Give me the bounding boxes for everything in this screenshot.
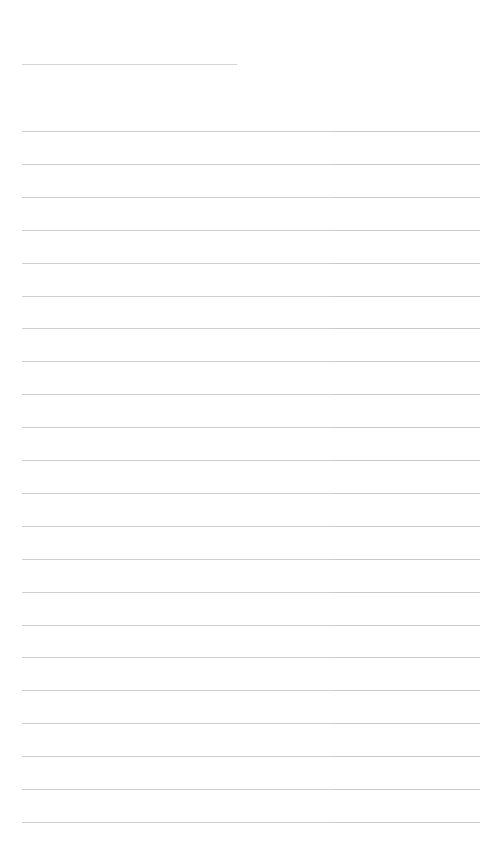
ruled-row: [22, 559, 480, 560]
row-line-left: [22, 164, 334, 165]
row-line-right: [334, 756, 480, 757]
ruled-row: [22, 427, 480, 428]
ruled-row: [22, 131, 480, 132]
ruled-row: [22, 197, 480, 198]
row-line-right: [334, 131, 480, 132]
row-line-right: [334, 361, 480, 362]
row-line-right: [334, 493, 480, 494]
row-line-left: [22, 493, 334, 494]
row-line-right: [334, 328, 480, 329]
ruled-row: [22, 756, 480, 757]
ruled-row: [22, 723, 480, 724]
ruled-row: [22, 263, 480, 264]
row-line-left: [22, 394, 334, 395]
ruled-row: [22, 493, 480, 494]
row-line-right: [334, 427, 480, 428]
ruled-row: [22, 592, 480, 593]
ruled-row: [22, 164, 480, 165]
row-line-left: [22, 197, 334, 198]
ruled-row: [22, 625, 480, 626]
row-line-right: [334, 197, 480, 198]
title-blank-line: [22, 64, 237, 65]
row-line-right: [334, 789, 480, 790]
row-line-right: [334, 460, 480, 461]
row-line-left: [22, 690, 334, 691]
row-line-right: [334, 657, 480, 658]
ruled-row: [22, 230, 480, 231]
row-line-left: [22, 723, 334, 724]
row-line-left: [22, 328, 334, 329]
row-line-right: [334, 394, 480, 395]
row-line-right: [334, 559, 480, 560]
row-line-left: [22, 361, 334, 362]
row-line-left: [22, 789, 334, 790]
row-line-right: [334, 164, 480, 165]
row-line-right: [334, 230, 480, 231]
row-line-left: [22, 559, 334, 560]
row-line-left: [22, 625, 334, 626]
row-line-right: [334, 625, 480, 626]
row-line-left: [22, 592, 334, 593]
ruled-row: [22, 460, 480, 461]
ruled-row: [22, 296, 480, 297]
row-line-right: [334, 690, 480, 691]
ruled-row: [22, 789, 480, 790]
ruled-row: [22, 394, 480, 395]
ruled-row: [22, 822, 480, 823]
row-line-left: [22, 296, 334, 297]
row-line-right: [334, 526, 480, 527]
row-line-right: [334, 723, 480, 724]
row-line-left: [22, 263, 334, 264]
row-line-left: [22, 756, 334, 757]
row-line-left: [22, 822, 334, 823]
row-line-right: [334, 592, 480, 593]
row-line-left: [22, 230, 334, 231]
row-line-right: [334, 263, 480, 264]
row-line-left: [22, 427, 334, 428]
ruled-row: [22, 361, 480, 362]
row-line-left: [22, 460, 334, 461]
row-line-right: [334, 296, 480, 297]
ruled-row: [22, 657, 480, 658]
row-line-right: [334, 822, 480, 823]
row-line-left: [22, 526, 334, 527]
ruled-row: [22, 328, 480, 329]
row-line-left: [22, 131, 334, 132]
ruled-row: [22, 526, 480, 527]
row-line-left: [22, 657, 334, 658]
ruled-row: [22, 690, 480, 691]
